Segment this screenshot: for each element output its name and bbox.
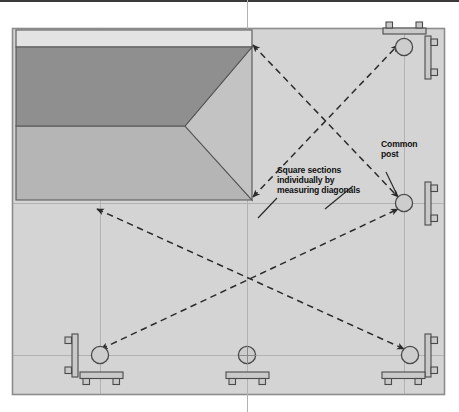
annotation-common-post: Common post <box>381 140 445 160</box>
post-circle <box>91 346 108 363</box>
post-circle <box>395 38 412 55</box>
diagram-svg <box>0 0 459 412</box>
diagram-canvas: Square sections individually by measurin… <box>0 0 459 412</box>
bracket-horizontal-top <box>383 22 426 34</box>
annotation-square-sections-line3: measuring diagonals <box>277 186 377 196</box>
annotation-common-post-line2: post <box>381 150 445 160</box>
slab-light-strip <box>16 30 252 47</box>
slab-assembly <box>16 30 252 200</box>
post-circle <box>395 194 412 211</box>
annotation-square-sections: Square sections individually by measurin… <box>277 166 377 196</box>
post-circle <box>401 346 418 363</box>
